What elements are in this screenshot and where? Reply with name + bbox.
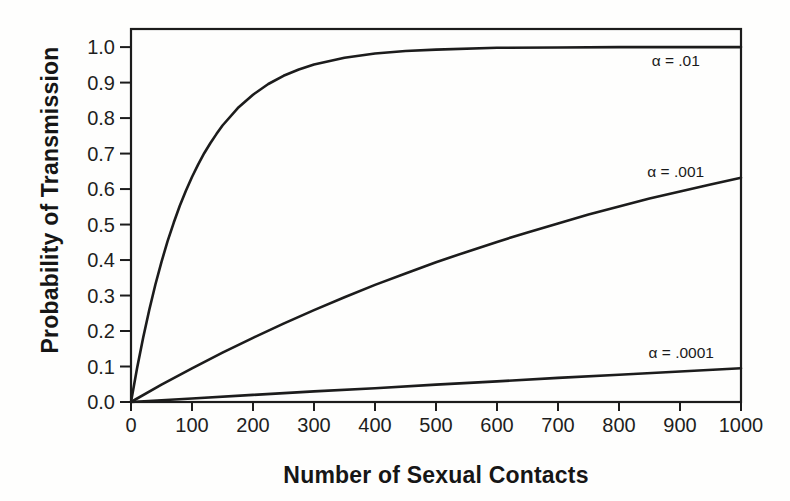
x-tick-label: 900: [663, 414, 696, 436]
x-axis-title: Number of Sexual Contacts: [283, 462, 588, 488]
y-tick-label: 0.6: [87, 178, 115, 200]
x-tick-label: 700: [541, 414, 574, 436]
y-tick-label: 0.0: [87, 391, 115, 413]
x-tick-label: 800: [602, 414, 635, 436]
y-tick-label: 0.9: [87, 72, 115, 94]
y-axis-title: Probability of Transmission: [37, 46, 63, 353]
y-tick-label: 0.2: [87, 320, 115, 342]
x-tick-label: 1000: [719, 414, 764, 436]
x-tick-label: 600: [480, 414, 513, 436]
x-tick-label: 300: [297, 414, 330, 436]
series-label-alpha-0.001: α = .001: [647, 163, 704, 180]
y-tick-label: 0.5: [87, 214, 115, 236]
series-label-alpha-0.01: α = .01: [652, 52, 700, 69]
y-tick-label: 1.0: [87, 36, 115, 58]
series-label-alpha-0.0001: α = .0001: [649, 344, 714, 361]
plot-area: 0.00.10.20.30.40.50.60.70.80.91.00100200…: [87, 29, 763, 436]
x-tick-label: 200: [236, 414, 269, 436]
plot-canvas: Probability of Transmission Number of Se…: [0, 0, 790, 501]
x-tick-label: 0: [125, 414, 136, 436]
y-tick-label: 0.3: [87, 285, 115, 307]
y-tick-label: 0.8: [87, 107, 115, 129]
transmission-probability-chart: Probability of Transmission Number of Se…: [0, 0, 790, 501]
x-tick-label: 500: [419, 414, 452, 436]
y-tick-label: 0.4: [87, 249, 115, 271]
y-tick-label: 0.1: [87, 356, 115, 378]
x-tick-label: 100: [175, 414, 208, 436]
x-tick-label: 400: [358, 414, 391, 436]
y-tick-label: 0.7: [87, 143, 115, 165]
series-line-alpha-0.0001: [131, 368, 741, 402]
series-line-alpha-0.001: [131, 178, 741, 402]
